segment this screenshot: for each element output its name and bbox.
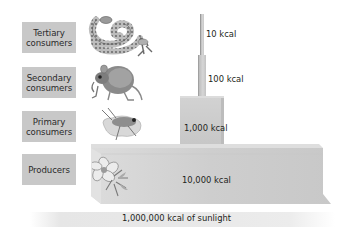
label-tertiary-consumers: Tertiary consumers bbox=[22, 22, 76, 53]
energy-bar-tertiary bbox=[200, 14, 204, 56]
label-secondary-consumers: Secondary consumers bbox=[22, 67, 76, 98]
energy-label-tertiary: 10 kcal bbox=[206, 29, 236, 39]
energy-label-producers: 10,000 kcal bbox=[182, 175, 231, 185]
label-line: consumers bbox=[26, 127, 72, 137]
sunlight-label: 1,000,000 kcal of sunlight bbox=[0, 213, 349, 223]
flower-icon bbox=[92, 156, 136, 198]
mouse-icon bbox=[88, 60, 144, 104]
label-line: consumers bbox=[26, 38, 72, 48]
label-line: Secondary bbox=[26, 73, 72, 83]
label-producers: Producers bbox=[22, 154, 76, 185]
label-line: Producers bbox=[28, 165, 70, 175]
energy-bar-secondary bbox=[198, 55, 206, 100]
label-line: Primary bbox=[26, 117, 72, 127]
grasshopper-icon bbox=[98, 106, 146, 142]
energy-label-secondary: 100 kcal bbox=[208, 74, 244, 84]
label-line: consumers bbox=[26, 83, 72, 93]
label-line: Tertiary bbox=[26, 28, 72, 38]
label-primary-consumers: Primary consumers bbox=[22, 111, 76, 142]
energy-label-primary: 1,000 kcal bbox=[184, 123, 228, 133]
snake-icon bbox=[86, 14, 156, 58]
